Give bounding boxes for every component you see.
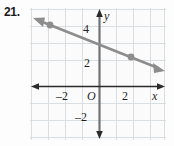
- y-axis-label: y: [104, 10, 109, 22]
- data-point-marker: [128, 54, 135, 61]
- y-tick-label-neg2: –2: [75, 111, 87, 123]
- figure-container: 21.: [0, 0, 174, 146]
- origin-label: O: [87, 90, 96, 102]
- y-tick-label-2: 2: [84, 57, 90, 69]
- graph-svg: [30, 8, 166, 140]
- coordinate-plane: 4 2 –2 –2 2 O y x: [30, 8, 166, 140]
- y-tick-label-4: 4: [83, 23, 89, 35]
- data-point-marker: [47, 22, 54, 29]
- problem-number-label: 21.: [4, 5, 20, 19]
- x-tick-label-2: 2: [122, 90, 128, 102]
- x-tick-label-neg2: –2: [56, 90, 68, 102]
- x-axis-label: x: [152, 90, 157, 102]
